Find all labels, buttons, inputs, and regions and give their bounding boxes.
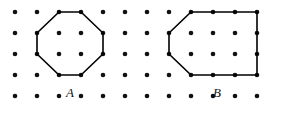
lattice-dot (211, 52, 216, 57)
lattice-dot (35, 94, 40, 99)
lattice-dot (101, 73, 106, 78)
lattice-figure-container: AB (0, 0, 286, 113)
lattice-dot (13, 73, 18, 78)
lattice-dot (145, 94, 150, 99)
lattice-dot (189, 52, 194, 57)
lattice-dot (13, 10, 18, 15)
lattice-dot (57, 31, 62, 36)
lattice-dot (189, 31, 194, 36)
lattice-dot (123, 73, 128, 78)
lattice-dot (145, 73, 150, 78)
lattice-dot (123, 31, 128, 36)
lattice-dot (233, 94, 238, 99)
lattice-dot (13, 31, 18, 36)
lattice-dot (57, 94, 62, 99)
lattice-dot (255, 94, 260, 99)
lattice-dot (123, 52, 128, 57)
figure-background (0, 0, 286, 113)
lattice-dot (101, 94, 106, 99)
lattice-dot (101, 10, 106, 15)
lattice-dot (123, 94, 128, 99)
lattice-dot (79, 31, 84, 36)
lattice-dot (57, 52, 62, 57)
shape-label-b: B (213, 85, 221, 100)
lattice-dot (233, 52, 238, 57)
lattice-dot (167, 73, 172, 78)
lattice-dot (35, 73, 40, 78)
lattice-dot (13, 94, 18, 99)
lattice-dot (79, 94, 84, 99)
lattice-dot (35, 10, 40, 15)
lattice-dot (167, 94, 172, 99)
lattice-dot (167, 10, 172, 15)
lattice-dot (79, 52, 84, 57)
lattice-dot (13, 52, 18, 57)
lattice-dot (211, 31, 216, 36)
lattice-dot (123, 10, 128, 15)
lattice-dot (145, 31, 150, 36)
shape-label-a: A (65, 85, 74, 100)
lattice-dot (145, 52, 150, 57)
lattice-figure: AB (0, 0, 286, 113)
lattice-dot (189, 94, 194, 99)
lattice-dot (145, 10, 150, 15)
lattice-dot (233, 31, 238, 36)
